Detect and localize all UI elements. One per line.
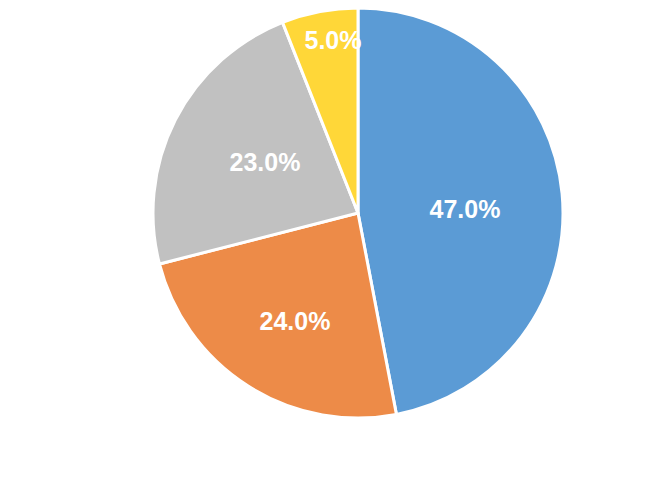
pie-plot-area: 47.0%24.0%23.0%5.0% (0, 0, 653, 440)
pie-data-label-transport: 23.0% (230, 148, 301, 176)
pie-data-label-batching: 24.0% (260, 307, 331, 335)
pie-data-label-concrete-mix: 47.0% (430, 195, 501, 223)
pie-data-label-vibration: 5.0% (305, 26, 362, 54)
pie-chart: 47.0%24.0%23.0%5.0% Concrete mix Batchin… (0, 0, 653, 483)
legend: Concrete mix Batching Transport Vibratio… (0, 452, 653, 483)
pie-svg: 47.0%24.0%23.0%5.0% (0, 0, 653, 440)
pie-slice-group (153, 8, 563, 418)
